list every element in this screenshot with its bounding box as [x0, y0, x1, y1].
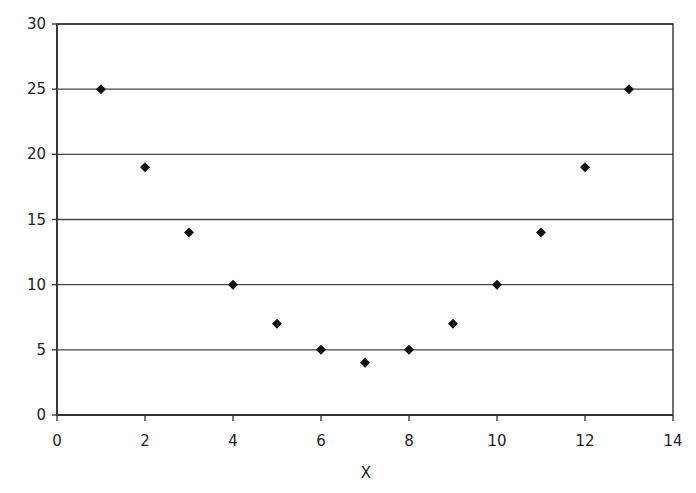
x-axis-ticks: 02468101214 — [52, 415, 682, 450]
data-point-diamond — [492, 280, 502, 290]
data-point-diamond — [184, 228, 194, 238]
y-tick-label: 15 — [27, 211, 46, 229]
x-axis-title: X — [361, 464, 371, 482]
data-point-diamond — [624, 84, 634, 94]
data-points — [96, 84, 634, 368]
y-axis-ticks: 051015202530 — [27, 15, 57, 424]
y-tick-label: 25 — [27, 80, 46, 98]
data-point-diamond — [404, 345, 414, 355]
y-tick-label: 30 — [27, 15, 46, 33]
x-tick-label: 4 — [228, 432, 238, 450]
scatter-chart: 051015202530 02468101214 X — [0, 0, 696, 493]
y-tick-label: 5 — [36, 341, 46, 359]
x-tick-label: 0 — [52, 432, 62, 450]
x-tick-label: 2 — [140, 432, 150, 450]
data-point-diamond — [316, 345, 326, 355]
y-tick-label: 10 — [27, 276, 46, 294]
x-tick-label: 6 — [316, 432, 326, 450]
x-tick-label: 10 — [487, 432, 506, 450]
data-point-diamond — [272, 319, 282, 329]
data-point-diamond — [580, 162, 590, 172]
data-point-diamond — [448, 319, 458, 329]
data-point-diamond — [536, 228, 546, 238]
data-point-diamond — [140, 162, 150, 172]
data-point-diamond — [96, 84, 106, 94]
data-point-diamond — [360, 358, 370, 368]
data-point-diamond — [228, 280, 238, 290]
y-tick-label: 0 — [36, 406, 46, 424]
x-tick-label: 8 — [404, 432, 414, 450]
x-tick-label: 14 — [663, 432, 682, 450]
y-tick-label: 20 — [27, 145, 46, 163]
x-tick-label: 12 — [575, 432, 594, 450]
gridlines — [57, 24, 673, 350]
